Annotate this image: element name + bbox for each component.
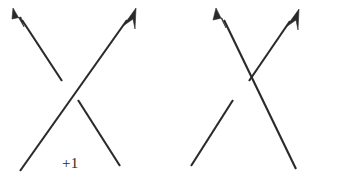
positive-crossing-diagram: +1: [0, 0, 177, 185]
under-strand-upper-segment: [22, 20, 62, 81]
over-strand-arrowhead-icon: [123, 8, 136, 29]
negative-crossing-diagram: -1: [177, 0, 354, 185]
under-strand-arrowhead-icon: [286, 9, 299, 30]
crossing-sign-figure: +1 -1: [0, 0, 354, 185]
under-strand-upper-segment: [249, 21, 290, 81]
positive-crossing-label: +1: [62, 156, 78, 171]
over-strand: [224, 20, 296, 169]
under-strand-lower-segment: [191, 100, 233, 166]
under-strand-lower-segment: [78, 100, 120, 166]
under-strand-arrowhead-icon: [12, 8, 24, 27]
over-strand-arrowhead-icon: [213, 8, 226, 28]
